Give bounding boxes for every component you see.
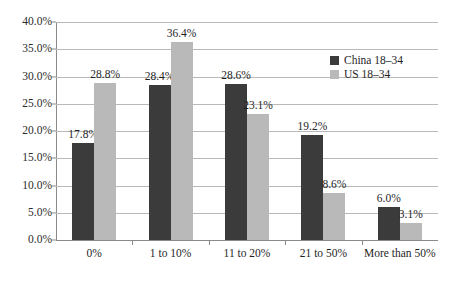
legend-label: China 18–34 bbox=[344, 55, 403, 67]
x-tick-mark bbox=[285, 240, 286, 245]
chart-legend: China 18–34US 18–34 bbox=[330, 55, 403, 80]
bar[interactable] bbox=[400, 223, 422, 240]
x-tick-mark bbox=[132, 240, 133, 245]
y-axis: 0.0%5.0%10.0%15.0%20.0%25.0%30.0%35.0%40… bbox=[0, 22, 52, 240]
x-tick-label: 1 to 10% bbox=[150, 248, 192, 260]
y-tick-label: 15.0% bbox=[4, 153, 52, 165]
legend-swatch-icon bbox=[330, 56, 339, 65]
y-tick-label: 30.0% bbox=[4, 71, 52, 83]
y-tick-label: 10.0% bbox=[4, 180, 52, 192]
gridline bbox=[56, 240, 438, 241]
x-tick-label: 0% bbox=[87, 248, 102, 260]
bar-value-label: 6.0% bbox=[367, 193, 411, 205]
legend-swatch-icon bbox=[330, 70, 339, 79]
y-tick-label: 0.0% bbox=[4, 234, 52, 246]
x-tick-label: 11 to 20% bbox=[224, 248, 271, 260]
legend-label: US 18–34 bbox=[344, 69, 390, 81]
legend-item[interactable]: China 18–34 bbox=[330, 55, 403, 67]
y-tick-label: 40.0% bbox=[4, 16, 52, 28]
bar-chart: 0.0%5.0%10.0%15.0%20.0%25.0%30.0%35.0%40… bbox=[0, 0, 449, 285]
x-tick-mark bbox=[362, 240, 363, 245]
x-tick-label: 21 to 50% bbox=[300, 248, 347, 260]
bar-value-label: 3.1% bbox=[389, 209, 433, 221]
x-axis: 0%1 to 10%11 to 20%21 to 50%More than 50… bbox=[56, 248, 438, 270]
y-tick-label: 20.0% bbox=[4, 125, 52, 137]
y-tick-label: 25.0% bbox=[4, 98, 52, 110]
x-tick-mark bbox=[209, 240, 210, 245]
y-tick-label: 5.0% bbox=[4, 207, 52, 219]
legend-item[interactable]: US 18–34 bbox=[330, 69, 403, 81]
x-tick-label: More than 50% bbox=[364, 248, 436, 260]
y-tick-label: 35.0% bbox=[4, 44, 52, 56]
